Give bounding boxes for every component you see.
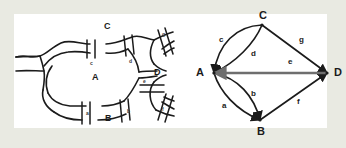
graph-vertex-label-D: D (334, 67, 342, 78)
map-bridge-label-d: d (129, 59, 132, 64)
map-region-label-A: A (92, 73, 99, 82)
figure-panel: C A B D c d a b e g f (14, 14, 327, 128)
graph-vertex-label-C: C (259, 10, 267, 21)
river-bank-south-outer (54, 112, 82, 120)
graph-edge-label-c: c (219, 36, 223, 44)
island-edge-west (46, 66, 52, 93)
koenigsberg-multigraph: A B C D c d a b e g f (174, 14, 327, 128)
island-edge-east-lower (124, 78, 139, 101)
bridge-d-side-2 (132, 35, 134, 54)
island-edge-north (44, 52, 90, 66)
river-bank-north-outer-2 (106, 36, 154, 44)
graph-vertex-label-A: A (196, 67, 204, 78)
river-south-east-1 (156, 110, 174, 116)
bridge-b-side-1 (120, 100, 122, 122)
graph-edge-f (260, 73, 327, 120)
map-bridge-label-b: b (127, 109, 130, 114)
figure-root: C A B D c d a b e g f (0, 0, 346, 148)
river-bank-north-outer (16, 41, 90, 57)
graph-edge-label-b: b (251, 90, 256, 98)
graph-edge-g (262, 25, 327, 73)
region-d-edge-upper (150, 40, 154, 64)
map-bridge-label-g: g (162, 32, 165, 37)
graph-vertex-dot-C (260, 23, 263, 26)
map-region-label-C: C (104, 22, 111, 31)
graph-vertex-label-B: B (257, 126, 265, 137)
river-fork-upper (16, 56, 40, 57)
map-bridge-label-c: c (90, 61, 93, 66)
map-bridge-label-a: a (86, 111, 89, 116)
island-edge-south (48, 93, 86, 106)
river-fork-join (40, 56, 44, 90)
graph-edge-label-a: a (222, 102, 226, 110)
region-d-edge-lower (150, 82, 156, 110)
graph-vertex-dot-D (325, 71, 328, 74)
map-region-label-D: D (154, 68, 161, 77)
map-svg (14, 14, 174, 128)
graph-edge-label-g: g (299, 36, 304, 44)
graph-vertex-dot-B (258, 118, 261, 121)
koenigsberg-map-diagram: C A B D c d a b e g f (14, 14, 174, 128)
map-region-label-B: B (105, 114, 112, 123)
map-bridge-label-f: f (162, 107, 164, 112)
graph-edge-label-f: f (297, 98, 300, 106)
graph-edge-label-d: d (251, 50, 256, 58)
map-bridge-label-e: e (143, 79, 146, 84)
graph-vertex-dot-A (212, 71, 215, 74)
graph-edge-label-e: e (288, 58, 292, 66)
